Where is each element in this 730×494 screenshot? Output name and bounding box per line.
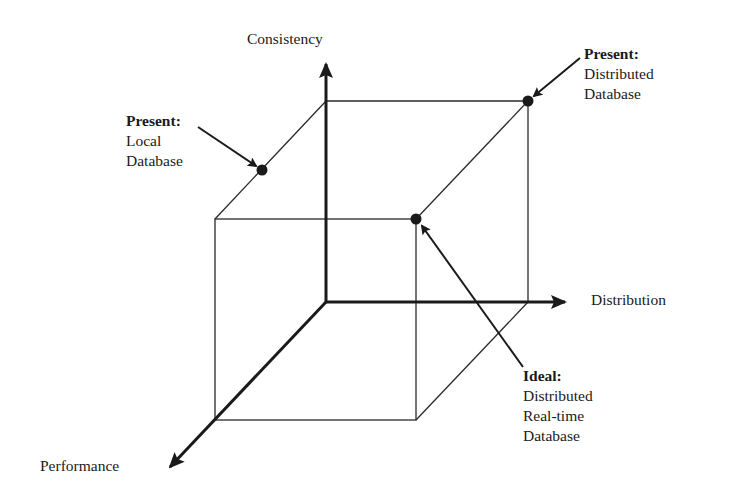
point-ideal: [411, 214, 422, 225]
performance-axis-label: Performance: [40, 456, 119, 476]
consistency-axis-label: Consistency: [247, 29, 323, 49]
point-present-local: [257, 165, 268, 176]
label-present-local: Present: Local Database: [126, 111, 183, 171]
points: [257, 96, 534, 225]
cube-edges: [215, 101, 528, 420]
label-present-distributed-db: Present: Distributed Database: [584, 44, 654, 104]
arrow-present-local: [198, 127, 256, 166]
distribution-label: Distribution: [591, 290, 666, 310]
arrow-present-distributed: [534, 58, 580, 96]
callout-arrows: [198, 58, 580, 367]
performance-axis: [170, 302, 326, 467]
point-present-distributed: [523, 96, 534, 107]
label-ideal: Ideal: Distributed Real-time Database: [523, 366, 593, 446]
arrow-ideal: [422, 226, 523, 367]
